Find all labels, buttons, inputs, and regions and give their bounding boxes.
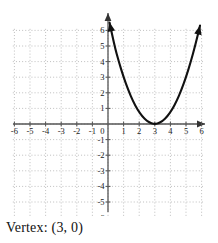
y-tick-label-2: 2 <box>100 88 104 98</box>
y-tick-label-1: 1 <box>100 103 104 113</box>
x-tick-label--4: -4 <box>42 126 50 136</box>
y-axis-arrow-icon <box>105 13 112 21</box>
y-tick-label-3: 3 <box>100 72 104 82</box>
y-tick-label--5: -5 <box>97 197 104 207</box>
x-tick-label-1: 1 <box>121 126 125 136</box>
axis-lines <box>13 13 205 212</box>
y-tick-label--4: -4 <box>97 181 105 191</box>
x-tick-label-4: 4 <box>168 126 173 136</box>
x-tick-label--2: -2 <box>73 126 80 136</box>
graph-svg: -6-5-4-3-2-10123456654321-1-2-3-4-5-6 <box>0 0 218 216</box>
x-tick-label-2: 2 <box>137 126 141 136</box>
y-tick-label-6: 6 <box>100 25 104 35</box>
x-tick-label--5: -5 <box>26 126 33 136</box>
vertex-caption: Vertex: (3, 0) <box>6 220 83 236</box>
y-tick-label-5: 5 <box>100 41 104 51</box>
x-tick-label--1: -1 <box>89 126 96 136</box>
x-tick-label--3: -3 <box>58 126 65 136</box>
y-tick-label--1: -1 <box>97 135 104 145</box>
x-tick-label--6: -6 <box>11 126 18 136</box>
y-tick-label--3: -3 <box>97 166 104 176</box>
x-tick-label-6: 6 <box>199 126 203 136</box>
coordinate-plane: -6-5-4-3-2-10123456654321-1-2-3-4-5-6 <box>0 0 218 216</box>
y-tick-label--6: -6 <box>97 213 104 216</box>
y-tick-label--2: -2 <box>97 150 104 160</box>
x-tick-label-5: 5 <box>184 126 188 136</box>
figure-container: -6-5-4-3-2-10123456654321-1-2-3-4-5-6 Ve… <box>0 0 218 243</box>
tick-labels: -6-5-4-3-2-10123456654321-1-2-3-4-5-6 <box>11 25 204 216</box>
y-tick-label-4: 4 <box>100 57 105 67</box>
x-tick-label-3: 3 <box>153 126 157 136</box>
